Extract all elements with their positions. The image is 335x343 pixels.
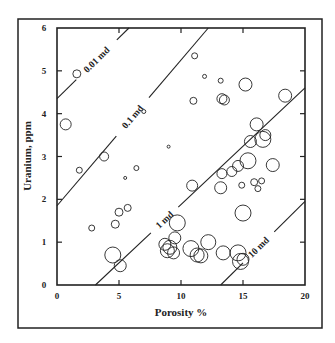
iso-line [57, 136, 116, 206]
data-point [235, 205, 251, 221]
data-point [259, 178, 265, 184]
data-point [60, 119, 71, 130]
data-point [203, 74, 207, 78]
data-point [233, 253, 249, 269]
data-point [217, 169, 227, 179]
x-tick-label: 15 [239, 291, 249, 301]
iso-line-label: 0.01 md [82, 44, 112, 74]
y-tick-label: 3 [42, 152, 47, 162]
data-point [190, 97, 197, 104]
data-point [215, 182, 227, 194]
data-point [250, 118, 263, 131]
data-point [251, 179, 258, 186]
y-tick-label: 5 [42, 66, 47, 76]
data-point [266, 159, 279, 172]
x-tick-label: 5 [117, 291, 122, 301]
data-point [124, 204, 131, 211]
data-point [230, 245, 246, 261]
x-axis-label: Porosity % [155, 306, 208, 318]
iso-line-label: 1 md [154, 209, 176, 231]
data-point [187, 180, 198, 191]
y-axis-label: Uranium, ppm [21, 121, 33, 191]
y-tick-label: 1 [42, 237, 47, 247]
data-point [218, 78, 223, 83]
y-tick-label: 0 [42, 280, 47, 290]
porosity-uranium-chart: 0.01 md0.1 md1 md10 md 05101520 0123456 … [0, 0, 335, 343]
data-point [111, 220, 119, 228]
data-points [60, 53, 291, 272]
x-tick-label: 10 [177, 291, 187, 301]
y-axis-ticks: 0123456 [42, 23, 305, 290]
iso-line [95, 233, 150, 285]
data-point [255, 186, 261, 192]
data-point [124, 176, 127, 179]
data-point [244, 136, 256, 148]
iso-line [274, 201, 305, 231]
data-point [89, 225, 95, 231]
iso-line [149, 28, 208, 98]
data-point [227, 166, 237, 176]
iso-line [57, 80, 76, 99]
iso-line [178, 88, 305, 207]
data-point [167, 145, 170, 148]
data-point [201, 235, 216, 250]
y-tick-label: 4 [42, 109, 47, 119]
x-tick-label: 20 [301, 291, 311, 301]
outer-frame [18, 19, 322, 328]
y-tick-label: 6 [42, 23, 47, 33]
iso-line-label: 10 md [246, 235, 271, 260]
x-tick-label: 0 [55, 291, 60, 301]
data-point [105, 247, 121, 263]
data-point [279, 89, 292, 102]
data-point [100, 152, 109, 161]
data-point [76, 167, 82, 173]
iso-line-label: 0.1 md [120, 103, 146, 131]
data-point [239, 182, 245, 188]
data-point [73, 70, 81, 78]
data-point [115, 208, 123, 216]
data-point [183, 241, 199, 257]
data-point [240, 153, 256, 169]
data-point [169, 215, 185, 231]
data-point [239, 78, 252, 91]
data-point [160, 244, 174, 258]
y-tick-label: 2 [42, 194, 47, 204]
data-point [216, 246, 230, 260]
data-point [134, 166, 139, 171]
data-point [192, 53, 198, 59]
iso-line [221, 263, 243, 285]
iso-permeability-lines: 0.01 md0.1 md1 md10 md [57, 28, 305, 285]
